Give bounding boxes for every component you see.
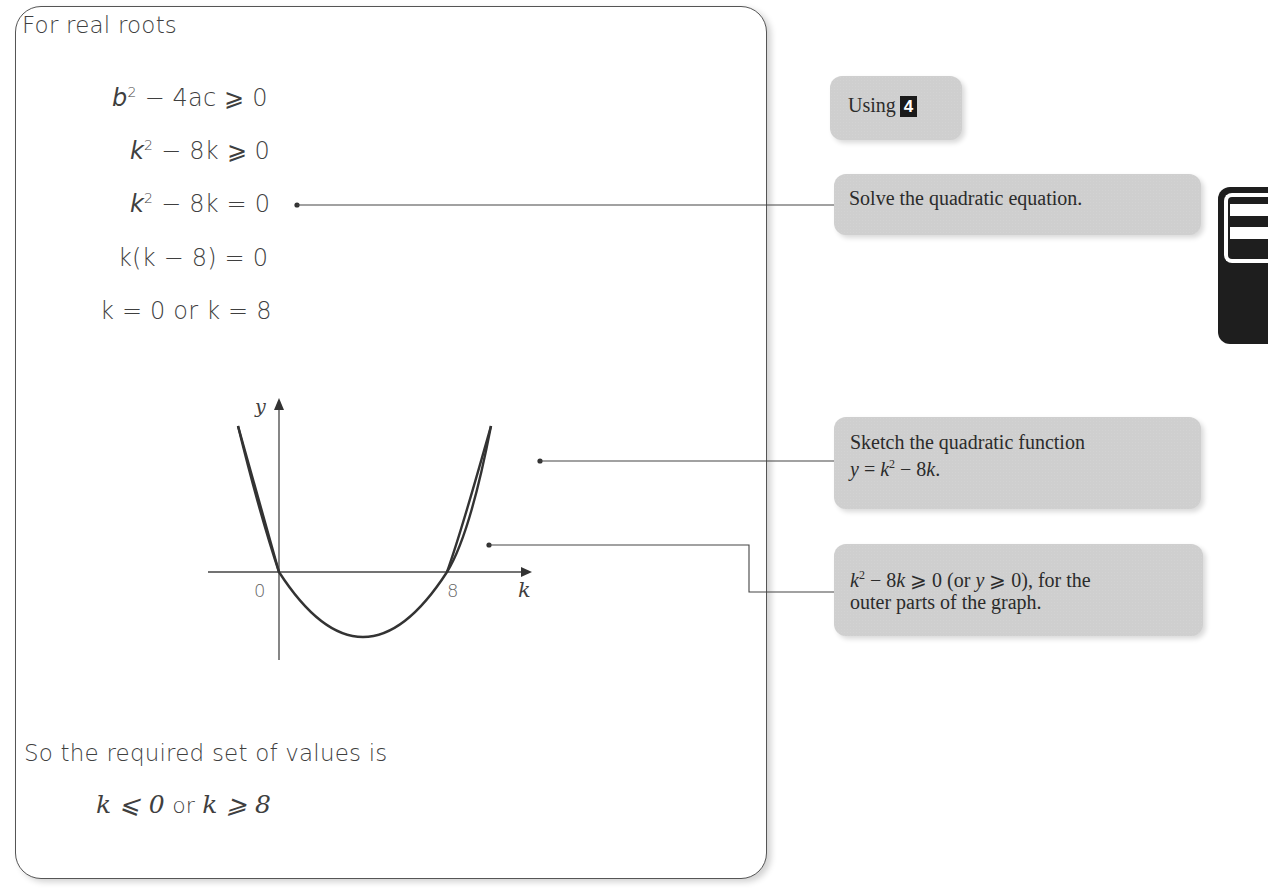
note-sketch: Sketch the quadratic function y = k2 − 8… (834, 417, 1201, 509)
answer: k ⩽ 0 or k ⩾ 8 (96, 790, 271, 819)
origin-label: 0 (254, 580, 266, 601)
root-8-label: 8 (447, 580, 459, 601)
reference-number-badge: 4 (900, 96, 917, 117)
note-solve: Solve the quadratic equation. (834, 174, 1201, 235)
y-axis-arrow-icon (274, 398, 284, 410)
note-using: Using4 (830, 76, 962, 140)
parabola-curve (238, 426, 491, 637)
y-axis-label: y (255, 395, 266, 417)
k-axis-arrow-icon (521, 567, 532, 577)
chapter-tab-marker (1218, 187, 1268, 344)
conclusion-text: So the required set of values is (24, 740, 388, 766)
k-axis-label: k (518, 578, 531, 602)
note-outer-parts: k2 − 8k ⩾ 0 (or y ⩾ 0), for the outer pa… (834, 544, 1203, 636)
